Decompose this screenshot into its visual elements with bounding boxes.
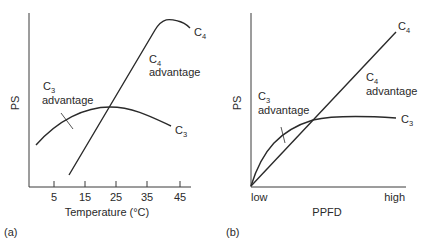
tick-label-high: high — [384, 191, 405, 203]
panel-a-c3-curve — [36, 107, 171, 145]
panel-a-y-label: PS — [9, 96, 21, 111]
panel-b-c4-advantage-word: advantage — [366, 85, 417, 97]
panel-a-c4-end-label: C4 — [194, 26, 206, 41]
panel-a-x-label: Temperature (°C) — [65, 206, 149, 218]
panel-b: low high PPFD PS (b) C3 advantage C4 adv… — [226, 13, 417, 238]
figure: 5 15 25 35 45 Temperature (°C) PS (a) C3… — [0, 0, 424, 248]
panel-b-x-label: PPFD — [312, 206, 341, 218]
panel-b-c3-curve — [251, 116, 396, 186]
panel-a-c3-end-label: C3 — [175, 124, 187, 139]
tick-label-5: 5 — [51, 191, 57, 203]
panel-a: 5 15 25 35 45 Temperature (°C) PS (a) C3… — [4, 13, 206, 238]
tick-label-25: 25 — [110, 191, 122, 203]
panel-a-label: (a) — [4, 226, 17, 238]
panel-b-label: (b) — [226, 226, 239, 238]
panel-a-c3-advantage: C3 — [43, 80, 55, 95]
panel-b-c4-end-label: C4 — [398, 20, 410, 35]
panel-a-c3-advantage-word: advantage — [42, 94, 93, 106]
panel-b-c3-end-label: C3 — [401, 113, 413, 128]
panel-b-c3-advantage-word: advantage — [258, 104, 309, 116]
panel-a-c4-advantage-word: advantage — [149, 66, 200, 78]
panel-b-c3-advantage: C3 — [258, 90, 270, 105]
panel-b-c4-advantage: C4 — [366, 71, 378, 86]
tick-label-45: 45 — [174, 191, 186, 203]
tick-label-low: low — [251, 191, 268, 203]
tick-label-15: 15 — [79, 191, 91, 203]
panel-b-c3-pointer — [281, 127, 285, 143]
panel-b-y-label: PS — [231, 96, 243, 111]
tick-label-35: 35 — [141, 191, 153, 203]
panel-a-ticks — [54, 181, 180, 187]
